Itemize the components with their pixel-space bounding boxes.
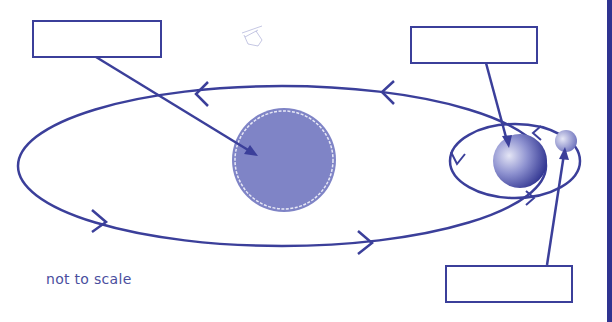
moon-label-box[interactable] [445, 265, 573, 303]
moon-pointer-line [547, 154, 564, 265]
moon-orbit-arrow-left-icon [451, 152, 465, 164]
sun-label-box[interactable] [32, 20, 162, 58]
moon-orbit-arrow-top-icon [533, 126, 541, 140]
sun-pointer-line [96, 57, 253, 153]
earth [493, 134, 547, 188]
moon [555, 130, 577, 152]
scale-caption: not to scale [46, 271, 132, 287]
orbit-arrow-top-left-icon [196, 82, 208, 106]
scribble-mark-icon [242, 26, 262, 46]
earth-pointer-line [486, 63, 507, 141]
sun [232, 108, 336, 212]
page-edge-bar [607, 0, 612, 322]
earth-label-box[interactable] [410, 26, 538, 64]
